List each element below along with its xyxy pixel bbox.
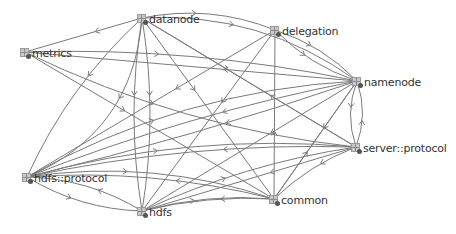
- node-label: metrics: [32, 47, 72, 60]
- dependency-edge: [350, 81, 357, 147]
- package-icon: [352, 77, 362, 87]
- dependency-edge: [142, 18, 274, 199]
- graph-node-namenode[interactable]: namenode: [352, 75, 421, 89]
- node-label: hdfs: [149, 206, 172, 219]
- package-icon: [137, 207, 147, 217]
- graph-node-server-protocol[interactable]: server::protocol: [351, 141, 447, 155]
- package-icon: [270, 26, 280, 36]
- node-label: namenode: [364, 76, 421, 89]
- package-icon: [351, 143, 361, 153]
- node-label: server::protocol: [363, 142, 447, 155]
- dependency-edge: [27, 81, 357, 177]
- dependency-edge: [27, 18, 142, 177]
- dependency-graph-canvas[interactable]: datanode metrics delegation namenode ser…: [0, 0, 456, 234]
- edges-layer: [0, 0, 456, 234]
- dependency-edge: [27, 81, 357, 177]
- node-label: common: [281, 194, 328, 207]
- package-icon: [20, 48, 30, 58]
- package-icon: [269, 195, 279, 205]
- dependency-edge: [356, 81, 363, 147]
- package-icon: [22, 173, 32, 183]
- package-icon: [137, 14, 147, 24]
- dependency-edge: [142, 18, 150, 211]
- graph-node-common[interactable]: common: [269, 193, 328, 207]
- graph-node-hdfs[interactable]: hdfs: [137, 205, 172, 219]
- dependency-edge: [27, 81, 357, 177]
- dependency-edge: [274, 147, 356, 199]
- dependency-edge: [27, 18, 142, 177]
- node-label: hdfs::protocol: [34, 172, 107, 185]
- node-label: delegation: [282, 25, 338, 38]
- graph-node-hdfs-protocol[interactable]: hdfs::protocol: [22, 171, 107, 185]
- graph-node-metrics[interactable]: metrics: [20, 46, 72, 60]
- graph-node-delegation[interactable]: delegation: [270, 24, 338, 38]
- node-label: datanode: [149, 13, 200, 26]
- graph-node-datanode[interactable]: datanode: [137, 12, 200, 26]
